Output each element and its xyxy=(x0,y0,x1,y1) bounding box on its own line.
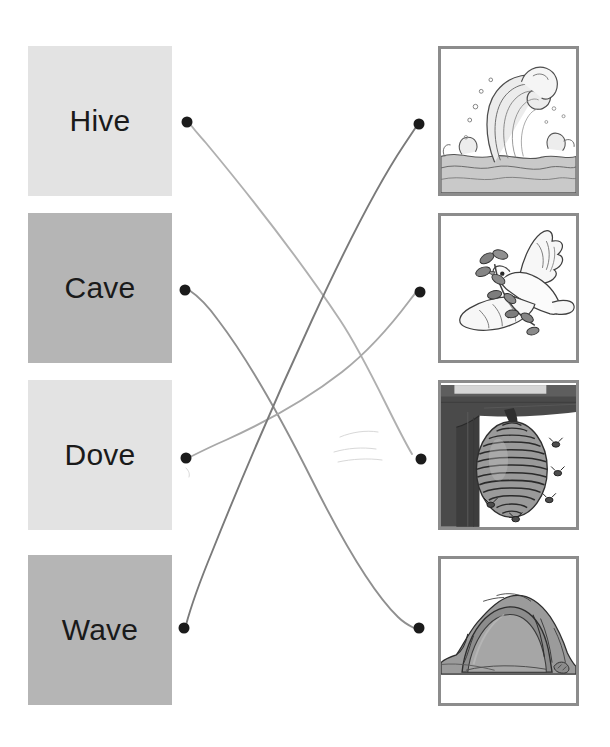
dove-icon xyxy=(441,216,576,360)
word-tile-hive[interactable]: Hive xyxy=(28,46,172,196)
connector-cave-to-cave[interactable] xyxy=(189,290,414,628)
endpoint-dot-hive[interactable] xyxy=(182,117,193,128)
endpoint-dot-dove[interactable] xyxy=(181,453,192,464)
word-label-hive: Hive xyxy=(70,106,131,136)
eraser-smudge xyxy=(340,431,378,437)
wave-icon xyxy=(441,49,576,193)
word-label-dove: Dove xyxy=(65,440,136,470)
connector-hive-to-beehive[interactable] xyxy=(190,124,412,454)
endpoint-dot-cave[interactable] xyxy=(180,285,191,296)
endpoint-dot-picture-beehive[interactable] xyxy=(416,454,427,465)
word-label-cave: Cave xyxy=(65,273,136,303)
endpoint-dot-picture-cave[interactable] xyxy=(414,623,425,634)
word-tile-wave[interactable]: Wave xyxy=(28,555,172,705)
word-tile-dove[interactable]: Dove xyxy=(28,380,172,530)
eraser-smudge xyxy=(334,448,376,452)
eraser-smudge xyxy=(186,468,189,477)
right-endpoint-dots xyxy=(414,119,427,634)
endpoint-dot-picture-dove[interactable] xyxy=(415,287,426,298)
picture-card-cave[interactable] xyxy=(438,556,579,706)
picture-card-dove[interactable] xyxy=(438,213,579,363)
eraser-smudge xyxy=(338,459,382,462)
left-endpoint-dots xyxy=(179,117,193,634)
picture-card-hive[interactable] xyxy=(438,380,579,530)
erased-pencil-marks xyxy=(186,431,382,477)
picture-card-wave[interactable] xyxy=(438,46,579,196)
endpoint-dot-picture-wave[interactable] xyxy=(414,119,425,130)
word-label-wave: Wave xyxy=(62,615,138,645)
worksheet-page: Hive Cave Dove Wave xyxy=(0,0,610,747)
endpoint-dot-wave[interactable] xyxy=(179,623,190,634)
connector-dove-to-dove[interactable] xyxy=(190,292,416,457)
cave-icon xyxy=(441,559,576,703)
beehive-icon xyxy=(441,383,576,527)
connector-wave-to-wave[interactable] xyxy=(186,127,416,625)
connector-lines xyxy=(186,124,416,628)
word-tile-cave[interactable]: Cave xyxy=(28,213,172,363)
